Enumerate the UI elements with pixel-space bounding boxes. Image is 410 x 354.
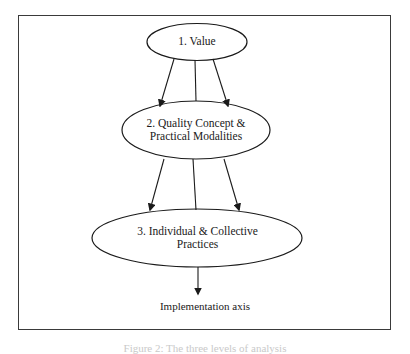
arrow-value-to-quality-left [160,59,174,106]
arrow-quality-to-practices-left [150,159,164,210]
connector-quality-to-practices-center [193,159,196,210]
node-value-label: 1. Value [147,35,247,48]
connector-value-to-quality-center [195,60,196,101]
figure-caption: Figure 2: The three levels of analysis [0,342,410,354]
arrow-quality-to-practices-right [224,159,239,210]
node-quality-line-1: 2. Quality Concept & [122,117,270,130]
node-practices-line-1: 3. Individual & Collective [92,225,303,238]
arrow-value-to-quality-right [213,59,228,106]
node-quality-label: 2. Quality Concept & Practical Modalitie… [122,117,270,143]
node-quality-line-2: Practical Modalities [122,130,270,143]
node-practices-line-2: Practices [92,238,303,251]
node-value-line-1: 1. Value [147,35,247,48]
node-practices-label: 3. Individual & Collective Practices [92,225,303,251]
implementation-axis-label: Implementation axis [0,300,410,312]
